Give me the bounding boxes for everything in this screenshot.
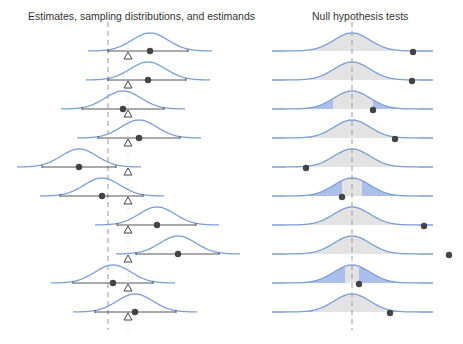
estimand-triangle-icon <box>124 313 132 320</box>
estimate-point <box>387 310 393 316</box>
estimand-triangle-icon <box>124 197 132 204</box>
estimate-point <box>392 136 398 142</box>
estimand-triangle-icon <box>124 139 132 146</box>
estimate-point <box>421 223 427 229</box>
estimate-point <box>99 193 105 199</box>
estimate-point <box>136 135 142 141</box>
estimate-point <box>356 281 362 287</box>
estimate-point <box>132 309 138 315</box>
diagram-canvas <box>0 0 463 344</box>
estimand-triangle-icon <box>124 81 132 88</box>
estimand-triangle-icon <box>124 226 132 233</box>
estimand-triangle-icon <box>124 168 132 175</box>
estimate-point <box>370 107 376 113</box>
estimate-point <box>303 165 309 171</box>
acceptance-region <box>333 91 373 109</box>
estimate-point <box>446 252 452 258</box>
estimate-point <box>145 77 151 83</box>
acceptance-region <box>272 207 424 225</box>
estimand-triangle-icon <box>124 255 132 262</box>
estimate-point <box>410 49 416 55</box>
estimate-point <box>409 78 415 84</box>
estimate-point <box>339 194 345 200</box>
estimate-point <box>154 222 160 228</box>
estimate-point <box>120 106 126 112</box>
estimate-point <box>110 280 116 286</box>
estimate-point <box>147 48 153 54</box>
estimand-triangle-icon <box>124 284 132 291</box>
estimand-triangle-icon <box>124 52 132 59</box>
estimate-point <box>175 251 181 257</box>
estimate-point <box>76 164 82 170</box>
